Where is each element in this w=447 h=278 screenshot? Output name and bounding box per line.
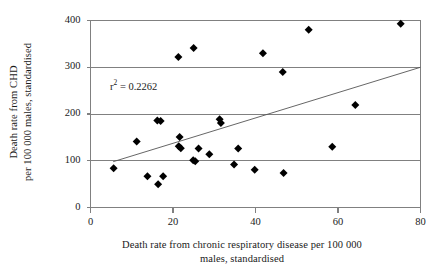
data-point — [305, 26, 313, 34]
data-point — [174, 53, 182, 61]
x-tick-label-60: 60 — [323, 216, 353, 227]
plot-canvas — [0, 0, 447, 278]
r-squared-value: = 0.2262 — [120, 81, 157, 92]
y-axis-title: Death rate from CHD per 100 000 males, s… — [7, 12, 35, 212]
y-tick-label-0: 0 — [47, 201, 81, 212]
y-axis-title-line2: per 100 000 males, standardised — [21, 12, 35, 212]
data-point — [230, 160, 238, 168]
data-point — [143, 172, 151, 180]
data-point — [133, 138, 141, 146]
data-point — [176, 133, 184, 141]
x-tick-label-0: 0 — [76, 216, 106, 227]
data-point — [259, 49, 267, 57]
data-point — [328, 143, 336, 151]
data-point — [154, 180, 162, 188]
x-axis-title-line1: Death rate from chronic respiratory dise… — [62, 238, 422, 252]
data-point — [195, 145, 203, 153]
data-point — [251, 166, 259, 174]
x-axis-title: Death rate from chronic respiratory dise… — [62, 238, 422, 266]
x-axis-title-line2: males, standardised — [62, 252, 422, 266]
axis-ticks — [87, 21, 421, 213]
x-tick-label-40: 40 — [241, 216, 271, 227]
data-point — [205, 150, 213, 158]
scatter-plot-figure: Death rate from CHD per 100 000 males, s… — [0, 0, 447, 278]
data-points — [110, 20, 405, 188]
data-point — [234, 145, 242, 153]
y-tick-label-200: 200 — [47, 107, 81, 118]
data-point — [159, 172, 167, 180]
data-point — [351, 101, 359, 109]
y-tick-label-100: 100 — [47, 154, 81, 165]
x-tick-label-20: 20 — [158, 216, 188, 227]
y-axis-title-line1: Death rate from CHD — [7, 12, 21, 212]
y-tick-label-400: 400 — [47, 14, 81, 25]
y-tick-label-300: 300 — [47, 60, 81, 71]
data-point — [279, 68, 287, 76]
x-tick-label-80: 80 — [406, 216, 436, 227]
data-point — [280, 169, 288, 177]
data-point — [190, 44, 198, 52]
r-squared-annotation: r2 = 0.2262 — [110, 78, 157, 92]
data-point — [110, 164, 118, 172]
r-squared-exponent: 2 — [114, 78, 118, 87]
